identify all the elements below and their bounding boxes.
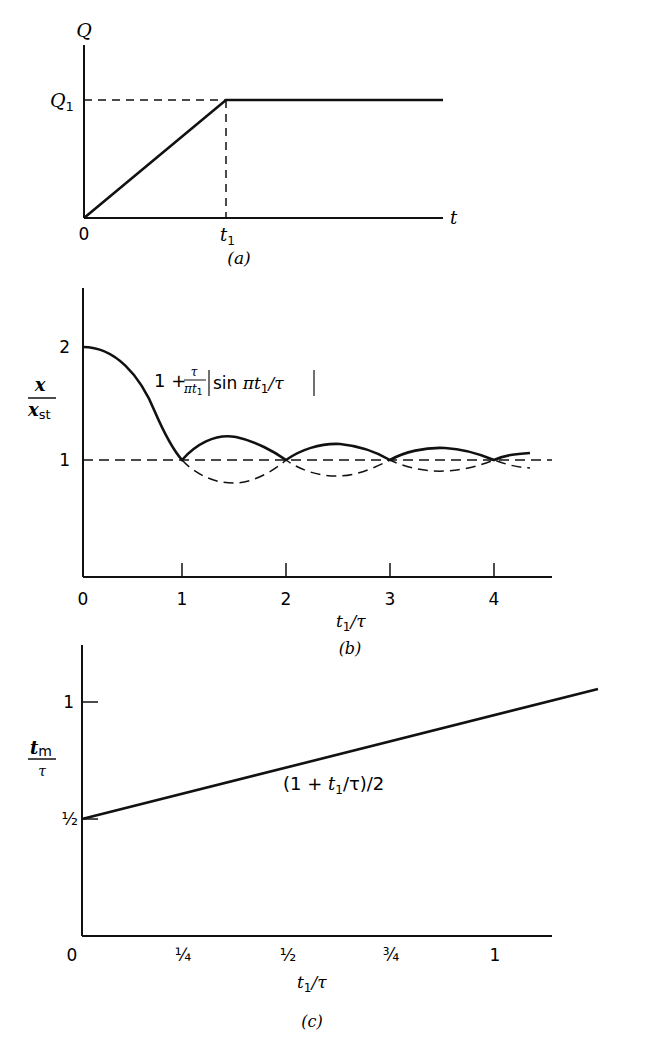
panel-c-xtick-label-quarter: ¼ (175, 945, 191, 965)
panel-a-caption: (a) (227, 248, 250, 268)
panel-a-ylabel: Q (76, 19, 92, 41)
formula-frac-den: πt1 (183, 382, 202, 397)
panel-b-upper-curve (83, 347, 530, 460)
panel-b-caption: (b) (339, 639, 362, 658)
panel-c-xtick-label-three-quarter: ¾ (383, 945, 399, 965)
panel-c-line (82, 689, 598, 819)
panel-a-ytick-q1: Q1 (50, 89, 74, 114)
panel-b-ytick-2: 2 (59, 337, 70, 357)
panel-b-xtick-label-2: 2 (281, 589, 292, 609)
panel-a-curve (84, 100, 443, 218)
panel-b-lower-curve-dashed (182, 460, 530, 483)
panel-c-ylabel-den: τ (38, 763, 46, 779)
panel-c-caption: (c) (301, 1012, 322, 1031)
panel-b-ytick-1: 1 (59, 450, 70, 470)
panel-a-xtick-t1: t1 (220, 224, 235, 248)
panel-b-xtick-label-3: 3 (385, 589, 396, 609)
panel-a: Q Q1 0 t1 t (a) (50, 19, 458, 268)
panel-c-xtick-label-0: 0 (67, 945, 78, 965)
panel-b-xtick-label-1: 1 (177, 589, 188, 609)
formula-abs-content: sin πt1/τ (213, 373, 284, 396)
panel-b-ylabel-den: xst (27, 399, 51, 422)
panel-b: 2 1 x xst 0 1 2 3 4 t1/τ (b) 1 + τ πt1 s… (27, 288, 552, 658)
panel-c-ytick-label-1: 1 (63, 692, 74, 712)
figure-canvas: Q Q1 0 t1 t (a) 2 1 x xst 0 1 2 3 4 t1/τ (0, 0, 649, 1056)
panel-c-formula-annotation: (1 + t1/τ)/2 (283, 773, 384, 797)
panel-b-xtick-label-4: 4 (489, 589, 500, 609)
formula-frac-num: τ (191, 365, 198, 379)
panel-b-xlabel: t1/τ (336, 611, 366, 634)
panel-b-formula-annotation: 1 + τ πt1 sin πt1/τ (154, 365, 314, 397)
formula-one-plus: 1 + (154, 370, 186, 391)
panel-a-xlabel: t (450, 207, 458, 228)
panel-c-xtick-label-1: 1 (490, 945, 501, 965)
panel-c-ylabel-num: tm (30, 737, 52, 759)
panel-b-xtick-label-0: 0 (78, 589, 89, 609)
panel-c: 1 ½ tm τ 0 ¼ ½ ¾ 1 t1/τ (c) (1 + t1/τ)/2 (28, 645, 598, 1031)
panel-c-xlabel: t1/τ (297, 972, 327, 995)
panel-c-xtick-label-half: ½ (280, 945, 296, 965)
panel-b-ylabel-num: x (34, 374, 46, 395)
panel-c-ytick-label-half: ½ (62, 809, 78, 829)
panel-a-origin: 0 (79, 224, 90, 244)
